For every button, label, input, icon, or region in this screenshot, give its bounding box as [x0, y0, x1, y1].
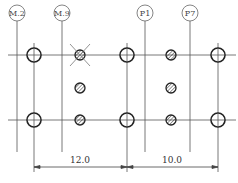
dimension-label-2: 10.0 [162, 155, 182, 165]
svg-text:M.9: M.9 [54, 9, 70, 18]
dimension-label-1: 12.0 [70, 155, 90, 165]
technical-drawing: M.2 M.9 P1 P7 12. [0, 0, 238, 183]
grid-label-p1: P1 [137, 5, 153, 21]
svg-text:P7: P7 [185, 9, 195, 18]
svg-text:P1: P1 [140, 9, 150, 18]
dimension-line [34, 166, 218, 169]
big-hole [27, 48, 225, 127]
grid-label-m2: M.2 [9, 5, 25, 21]
grid-label-m9: M.9 [54, 5, 70, 21]
grid-label-p7: P7 [182, 5, 198, 21]
svg-text:M.2: M.2 [9, 9, 25, 18]
